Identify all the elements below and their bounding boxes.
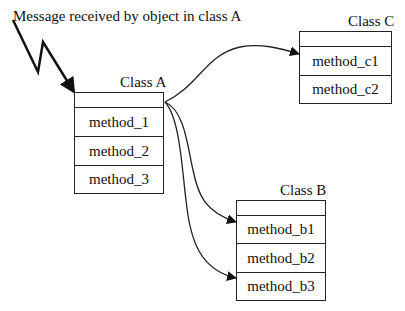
method-row[interactable]: method_c1 [300,47,391,76]
class-b-name: Class B [280,181,326,199]
connector-a-to-c1 [165,46,299,102]
class-b-header [237,201,325,216]
method-row[interactable]: method_b3 [237,273,325,299]
class-c-header [300,32,391,47]
class-a-box[interactable]: method_1 method_2 method_3 [74,92,164,194]
connector-a-to-b3 [165,102,236,278]
class-b-box[interactable]: method_b1 method_b2 method_b3 [236,200,326,301]
message-label: Message received by object in class A [13,7,241,25]
class-c-box[interactable]: method_c1 method_c2 [299,31,392,104]
connector-a-to-b1 [165,102,236,222]
class-a-header [75,93,163,108]
method-row[interactable]: method_b1 [237,216,325,244]
method-row[interactable]: method_c2 [300,76,391,102]
incoming-message-arrow [13,20,74,92]
class-c-name: Class C [348,12,394,30]
method-row[interactable]: method_b2 [237,244,325,273]
method-row[interactable]: method_2 [75,137,163,166]
method-row[interactable]: method_1 [75,108,163,137]
class-a-name: Class A [120,73,166,91]
method-row[interactable]: method_3 [75,166,163,193]
